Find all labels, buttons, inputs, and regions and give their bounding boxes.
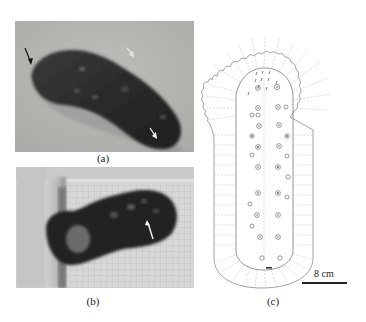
scale-bar <box>302 282 347 284</box>
oral-marks <box>248 71 277 95</box>
scale-bar-label: 8 cm <box>314 268 334 279</box>
specimen-outline-drawing <box>195 30 366 292</box>
drawing-c <box>195 30 366 292</box>
photo-b-image <box>16 167 194 288</box>
papillae <box>248 84 290 260</box>
papillae-centers <box>251 86 288 238</box>
radial-lines <box>206 36 330 288</box>
inner-outline <box>236 68 293 270</box>
panel-label-b: (b) <box>87 295 100 307</box>
panel-label-c: (c) <box>267 295 279 307</box>
photo-a <box>15 21 194 152</box>
photo-a-image <box>15 21 194 152</box>
photo-b <box>16 167 194 288</box>
panel-label-a: (a) <box>97 152 109 164</box>
anus-mark <box>266 267 272 269</box>
